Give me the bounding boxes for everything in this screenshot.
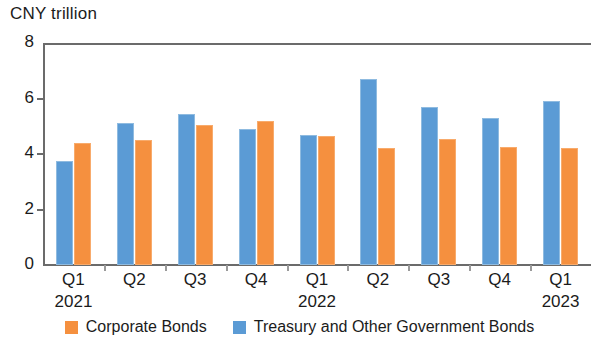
y-tick-label: 2 bbox=[0, 199, 34, 219]
y-tick-label: 8 bbox=[0, 32, 34, 52]
chart-legend: Corporate BondsTreasury and Other Govern… bbox=[0, 318, 599, 336]
x-tick-label: Q4 bbox=[469, 270, 530, 290]
bars-layer bbox=[43, 43, 591, 265]
y-tick-label: 0 bbox=[0, 254, 34, 274]
bar-corporate bbox=[74, 143, 91, 265]
x-tick-label: Q2 bbox=[104, 270, 165, 290]
x-tick-label: Q1 bbox=[530, 270, 591, 290]
bar-treasury bbox=[300, 135, 317, 265]
x-axis-year-label: 2022 bbox=[287, 292, 348, 312]
x-tick-label: Q1 bbox=[287, 270, 348, 290]
bar-treasury bbox=[421, 107, 438, 265]
legend-swatch-icon bbox=[233, 321, 246, 334]
bar-treasury bbox=[178, 114, 195, 265]
bar-corporate bbox=[439, 139, 456, 265]
bar-treasury bbox=[239, 129, 256, 265]
bar-corporate bbox=[196, 125, 213, 265]
y-tick-label: 6 bbox=[0, 88, 34, 108]
bar-chart: CNY trillion 02468 Q1Q2Q3Q4Q1Q2Q3Q4Q1 20… bbox=[0, 0, 599, 344]
x-tick-label: Q4 bbox=[226, 270, 287, 290]
legend-item: Treasury and Other Government Bonds bbox=[233, 318, 534, 336]
bar-corporate bbox=[257, 121, 274, 265]
bar-treasury bbox=[360, 79, 377, 265]
x-axis-year-label: 2023 bbox=[530, 292, 591, 312]
bar-corporate bbox=[135, 140, 152, 265]
x-tick-label: Q2 bbox=[347, 270, 408, 290]
bar-treasury bbox=[543, 101, 560, 265]
x-tick-label: Q1 bbox=[43, 270, 104, 290]
legend-item: Corporate Bonds bbox=[65, 318, 207, 336]
y-axis-title: CNY trillion bbox=[10, 4, 97, 24]
x-axis-year-label: 2021 bbox=[43, 292, 104, 312]
bar-corporate bbox=[500, 147, 517, 265]
legend-label: Corporate Bonds bbox=[86, 318, 207, 336]
x-tick-label: Q3 bbox=[165, 270, 226, 290]
bar-treasury bbox=[56, 161, 73, 265]
legend-label: Treasury and Other Government Bonds bbox=[254, 318, 534, 336]
legend-swatch-icon bbox=[65, 321, 78, 334]
x-tick-label: Q3 bbox=[408, 270, 469, 290]
bar-corporate bbox=[318, 136, 335, 265]
bar-corporate bbox=[561, 148, 578, 265]
bar-treasury bbox=[117, 123, 134, 265]
bar-corporate bbox=[378, 148, 395, 265]
bar-treasury bbox=[482, 118, 499, 265]
y-tick-label: 4 bbox=[0, 143, 34, 163]
